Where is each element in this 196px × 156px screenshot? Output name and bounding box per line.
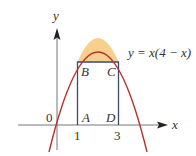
tick-label-3: 3	[114, 128, 121, 143]
parabola-curve	[49, 52, 147, 152]
shaded-region	[78, 38, 119, 62]
x-axis-label: x	[171, 117, 178, 132]
point-label-a: A	[81, 110, 90, 125]
point-label-d: D	[105, 110, 116, 125]
point-label-b: B	[81, 64, 89, 79]
y-axis-label: y	[51, 8, 59, 23]
point-label-c: C	[107, 64, 116, 79]
origin-label: 0	[46, 110, 53, 125]
equation-label: y = x(4 − x)	[126, 45, 191, 60]
parabola-diagram: y x 0 1 3 A D B C y = x(4 − x)	[0, 0, 196, 156]
tick-label-1: 1	[74, 128, 81, 143]
